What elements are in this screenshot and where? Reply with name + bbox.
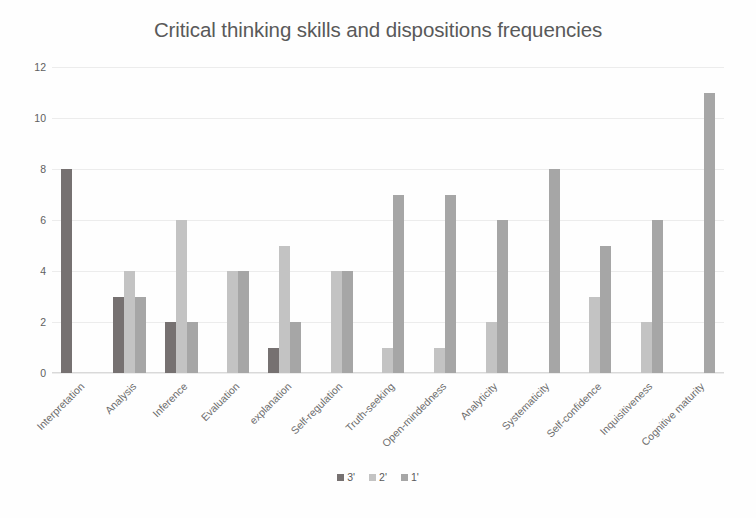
bar-group (414, 67, 466, 373)
bar[interactable] (290, 322, 301, 373)
chart-title: Critical thinking skills and disposition… (0, 18, 756, 42)
x-axis-tick-label: explanation (285, 380, 293, 388)
legend-label: 2' (379, 472, 387, 483)
bar[interactable] (187, 322, 198, 373)
bar-group (672, 67, 724, 373)
x-axis-tick-label: Evaluation (233, 380, 241, 388)
plot-area: 024681012 (52, 67, 724, 373)
x-axis-tick-label: Self-confidence (595, 380, 603, 388)
bar[interactable] (342, 271, 353, 373)
bar[interactable] (382, 348, 393, 374)
bar[interactable] (279, 246, 290, 374)
bar[interactable] (61, 169, 72, 373)
gridline (52, 373, 724, 374)
bar[interactable] (434, 348, 445, 374)
y-axis-tick-label: 10 (6, 112, 46, 124)
bar[interactable] (227, 271, 238, 373)
y-axis-tick-label: 0 (6, 367, 46, 379)
bar-group (362, 67, 414, 373)
chart-legend: 3'2'1' (0, 472, 756, 483)
x-axis-tick-label: Truth-seeking (388, 380, 396, 388)
y-axis-tick-label: 6 (6, 214, 46, 226)
x-axis-tick-label: Open-mindedness (440, 380, 448, 388)
legend-swatch-icon (369, 474, 376, 481)
legend-swatch-icon (401, 474, 408, 481)
bar[interactable] (652, 220, 663, 373)
bar[interactable] (549, 169, 560, 373)
legend-label: 3' (347, 472, 355, 483)
x-axis-tick-label: Self-regulation (336, 380, 344, 388)
bar-group (207, 67, 259, 373)
x-axis-tick-label: Analyticity (491, 380, 499, 388)
x-axis-tick-label: Cognitive maturity (698, 380, 706, 388)
x-axis-labels: InterpretationAnalysisInferenceEvaluatio… (52, 376, 724, 476)
bar-group (621, 67, 673, 373)
bar[interactable] (238, 271, 249, 373)
bar[interactable] (393, 195, 404, 374)
x-axis-tick-label: Inquisitiveness (646, 380, 654, 388)
bar[interactable] (176, 220, 187, 373)
bar[interactable] (165, 322, 176, 373)
bar-group (52, 67, 104, 373)
y-axis-tick-label: 4 (6, 265, 46, 277)
bar-groups (52, 67, 724, 373)
bar[interactable] (445, 195, 456, 374)
x-axis-tick-label: Interpretation (78, 380, 86, 388)
chart-container: Critical thinking skills and disposition… (0, 0, 756, 518)
bar-group (259, 67, 311, 373)
bar[interactable] (641, 322, 652, 373)
bar-group (517, 67, 569, 373)
legend-item[interactable]: 1' (401, 472, 419, 483)
bar[interactable] (135, 297, 146, 374)
bar-group (310, 67, 362, 373)
bar[interactable] (486, 322, 497, 373)
bar[interactable] (124, 271, 135, 373)
bar[interactable] (704, 93, 715, 374)
x-axis-tick-label: Analysis (130, 380, 138, 388)
bar-group (569, 67, 621, 373)
y-axis-tick-label: 8 (6, 163, 46, 175)
x-axis-tick-label: Inference (181, 380, 189, 388)
bar[interactable] (113, 297, 124, 374)
legend-label: 1' (411, 472, 419, 483)
legend-item[interactable]: 2' (369, 472, 387, 483)
bar[interactable] (497, 220, 508, 373)
bar[interactable] (268, 348, 279, 374)
bar-group (466, 67, 518, 373)
bar-group (104, 67, 156, 373)
bar[interactable] (331, 271, 342, 373)
y-axis-tick-label: 2 (6, 316, 46, 328)
bar-group (155, 67, 207, 373)
y-axis-tick-label: 12 (6, 61, 46, 73)
legend-swatch-icon (337, 474, 344, 481)
x-axis-tick-label: Systematicity (543, 380, 551, 388)
legend-item[interactable]: 3' (337, 472, 355, 483)
bar[interactable] (600, 246, 611, 374)
bar[interactable] (589, 297, 600, 374)
